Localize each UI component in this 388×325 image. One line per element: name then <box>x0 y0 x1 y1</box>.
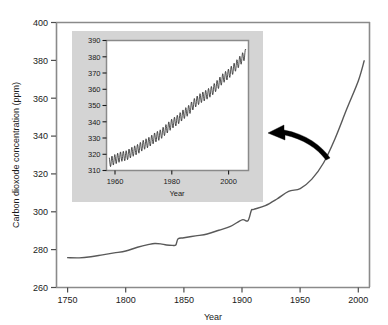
x-tick-label: 2000 <box>348 295 368 305</box>
main-y-axis-title: Carbon dioxode concentration (ppm) <box>11 82 21 228</box>
co2-concentration-figure: 400 380 360 340 320 300 <box>0 0 388 325</box>
y-tick-label: 380 <box>33 56 48 66</box>
inset-y-tick-label: 310 <box>88 166 101 175</box>
x-tick-label: 1950 <box>290 295 310 305</box>
inset-y-axis: 390 380 370 360 350 <box>88 36 107 175</box>
inset-y-tick-label: 370 <box>88 69 101 78</box>
x-tick-label: 1800 <box>116 295 136 305</box>
inset-plot-frame <box>107 41 249 171</box>
y-tick-label: 320 <box>33 169 48 179</box>
inset-panel: 390 380 370 360 350 <box>72 31 263 202</box>
inset-y-tick-label: 320 <box>88 150 101 159</box>
y-tick-label: 340 <box>33 131 48 141</box>
inset-y-tick-label: 330 <box>88 134 101 143</box>
x-tick-label: 1850 <box>174 295 194 305</box>
inset-x-tick-label: 1980 <box>163 177 180 186</box>
inset-y-tick-label: 380 <box>88 53 101 62</box>
chart-svg: 400 380 360 340 320 300 <box>0 0 388 325</box>
y-tick-label: 300 <box>33 207 48 217</box>
x-tick-label: 1750 <box>58 295 78 305</box>
main-x-axis-title: Year <box>204 312 222 322</box>
y-tick-label: 360 <box>33 94 48 104</box>
x-tick-label: 1900 <box>232 295 252 305</box>
inset-x-tick-label: 1960 <box>107 177 124 186</box>
inset-y-tick-label: 390 <box>88 36 101 45</box>
inset-y-tick-label: 350 <box>88 101 101 110</box>
y-tick-label: 400 <box>33 18 48 28</box>
y-tick-label: 280 <box>33 245 48 255</box>
y-tick-label: 260 <box>33 283 48 293</box>
inset-x-tick-label: 2000 <box>220 177 237 186</box>
inset-y-tick-label: 360 <box>88 85 101 94</box>
inset-x-axis-title: Year <box>169 189 185 198</box>
inset-y-tick-label: 340 <box>88 118 101 127</box>
